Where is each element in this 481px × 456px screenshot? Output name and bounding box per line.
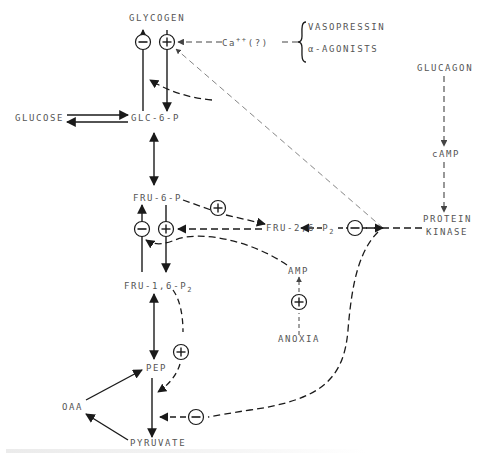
node-calcium-uncertain: (?) xyxy=(248,38,269,48)
pyruvate-oaa-arrow xyxy=(86,414,128,440)
oaa-pep-arrow xyxy=(86,370,142,400)
node-pep: PEP xyxy=(146,363,167,373)
node-calcium-superscript: ++ xyxy=(236,36,248,44)
node-fru16p2-subscript: 2 xyxy=(187,286,193,294)
plus-to-fru26p2-dash xyxy=(226,215,265,224)
regulator-plus-pfk xyxy=(159,222,174,237)
node-pyruvate: PYRUVATE xyxy=(130,438,186,448)
node-fru16p2: FRU-1,6-P2 xyxy=(124,281,193,294)
pathway-lines xyxy=(0,0,481,456)
regulator-minus-pk-on-fru26p2 xyxy=(348,221,363,236)
fru16p2-to-plus-dash xyxy=(173,290,183,332)
regulator-minus-pyruvate-kinase xyxy=(189,410,204,425)
node-glucagon: GLUCAGON xyxy=(417,63,473,73)
node-amp: AMP xyxy=(288,266,309,276)
pk-to-glycogen-minus-dash xyxy=(150,80,212,100)
regulator-minus-fbpase xyxy=(135,222,150,237)
fru6p-to-plus-dash xyxy=(183,200,211,210)
amp-to-fbpase-minus-dash xyxy=(146,236,287,265)
fru6p-fru16p2-arrows xyxy=(142,205,166,272)
node-glycogen: GLYCOGEN xyxy=(129,13,185,23)
node-camp: cAMP xyxy=(432,149,460,159)
node-calcium-text: Ca xyxy=(222,38,236,48)
glycolysis-regulation-diagram: GLYCOGEN GLUCOSE GLC-6-P FRU-6-P FRU-1,6… xyxy=(0,0,481,456)
node-oaa: OAA xyxy=(62,402,83,412)
node-fru26p2-subscript: 2 xyxy=(329,228,335,236)
regulator-plus-anoxia xyxy=(292,295,307,310)
node-glc6p: GLC-6-P xyxy=(131,113,180,123)
pk-to-glycogen-plus-dash xyxy=(176,49,383,228)
regulator-plus-fru16p2-feedforward xyxy=(174,345,189,360)
node-fru6p: FRU-6-P xyxy=(133,193,182,203)
node-vasopressin: VASOPRESSIN xyxy=(308,22,385,32)
node-fru16p2-text: FRU-1,6-P xyxy=(124,281,187,291)
regulator-plus-pfk2 xyxy=(211,201,226,216)
regulator-plus-glycogen-phosphorylase xyxy=(160,35,175,50)
pk-to-pyruvate-kinase-dash xyxy=(208,232,378,417)
node-fru26p2-text: FRU-2,6-P xyxy=(266,223,329,233)
node-glucose: GLUCOSE xyxy=(15,113,64,123)
node-calcium: Ca++(?) xyxy=(222,36,269,48)
node-fru26p2: FRU-2,6-P2 xyxy=(266,223,335,236)
regulator-minus-glycogen-synthase xyxy=(136,35,151,50)
node-alpha-agonists: α-AGONISTS xyxy=(308,44,378,54)
node-protein-kinase-line1: PROTEIN xyxy=(423,214,472,224)
node-anoxia: ANOXIA xyxy=(278,334,320,344)
cropped-caption-line xyxy=(6,449,366,453)
hormone-brace xyxy=(298,22,306,62)
glucose-glc6p-arrows xyxy=(67,115,128,122)
node-protein-kinase-line2: KINASE xyxy=(426,227,468,237)
